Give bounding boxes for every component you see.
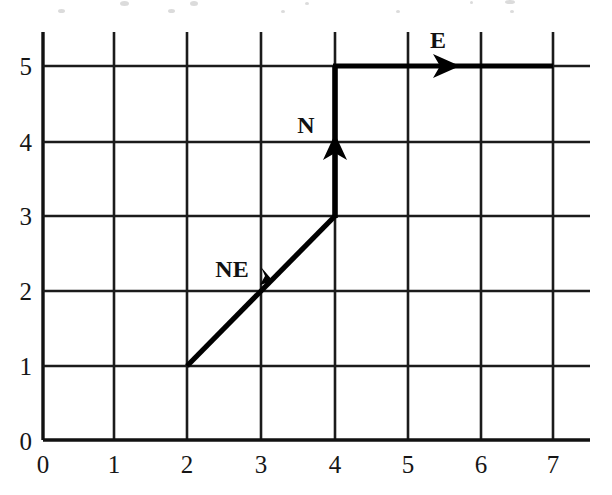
step-label-ne: NE [215,256,248,282]
x-tick-1: 1 [108,451,121,478]
x-axis-tick-labels: 0 1 2 3 4 5 6 7 [37,451,560,478]
y-tick-5: 5 [20,53,33,80]
x-tick-3: 3 [255,451,268,478]
step-label-n: N [297,112,315,138]
y-tick-0: 0 [20,428,33,455]
y-tick-2: 2 [20,278,33,305]
x-tick-6: 6 [475,451,488,478]
lattice-figure: NE N E 0 1 2 3 4 5 0 1 2 3 4 5 6 7 [0,0,612,495]
y-axis-tick-labels: 0 1 2 3 4 5 [20,53,33,455]
step-label-e: E [430,27,446,53]
x-tick-7: 7 [547,451,560,478]
lattice-plot-canvas: NE N E 0 1 2 3 4 5 0 1 2 3 4 5 6 7 [0,0,612,495]
x-tick-2: 2 [181,451,194,478]
y-tick-1: 1 [20,353,33,380]
y-tick-3: 3 [20,203,33,230]
lattice-path [187,54,553,366]
y-tick-4: 4 [20,129,33,156]
x-tick-0: 0 [37,451,50,478]
x-tick-5: 5 [402,451,415,478]
x-tick-4: 4 [329,451,342,478]
